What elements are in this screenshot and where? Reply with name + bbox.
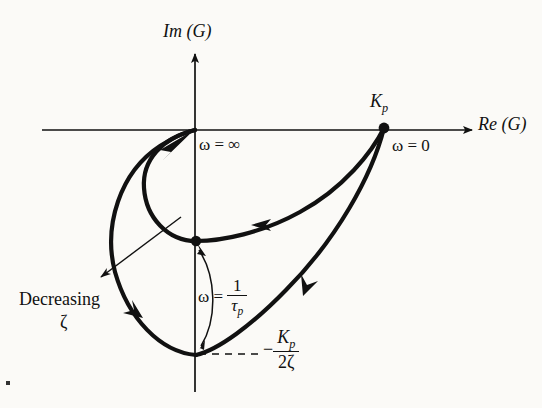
resonant-peak-k: K xyxy=(277,327,289,347)
resonant-peak-minus-sign: − xyxy=(263,339,273,359)
resonant-peak-numerator: Kp xyxy=(273,328,299,352)
nyquist-curve-low-damping-return xyxy=(111,130,196,355)
decreasing-label: Decreasing xyxy=(19,290,100,308)
real-axis-label: Re (G) xyxy=(478,115,526,133)
omega-break-fraction: 1 τp xyxy=(227,277,247,318)
scan-artifact-dot xyxy=(6,381,10,385)
nyquist-plot-figure: Im (G) Re (G) Kp ω = 0 ω = ∞ ω = 1 τp − … xyxy=(0,0,542,408)
resonant-peak-label: − Kp 2ζ xyxy=(263,329,299,372)
resonant-peak-k-subscript: p xyxy=(289,337,295,351)
omega-break-numerator: 1 xyxy=(227,277,247,296)
nyquist-curve-high-damping xyxy=(144,128,384,241)
omega-break-tau-subscript: p xyxy=(237,306,243,319)
omega-break-label: ω = 1 τp xyxy=(198,278,247,319)
resonant-peak-fraction: Kp 2ζ xyxy=(273,328,299,371)
omega-zero-label: ω = 0 xyxy=(392,137,430,154)
nyquist-curve-low-damping xyxy=(111,128,384,355)
gain-point-label: Kp xyxy=(370,92,388,114)
omega-break-denominator: τp xyxy=(227,296,247,318)
decreasing-zeta-symbol: ζ xyxy=(60,313,67,331)
resonant-peak-denominator: 2ζ xyxy=(273,352,299,371)
axis-group xyxy=(42,54,472,392)
omega-break-prefix: ω = xyxy=(198,287,227,306)
point-omega-break xyxy=(191,236,201,246)
point-kp xyxy=(379,123,390,134)
gain-point-symbol: K xyxy=(370,91,382,111)
nyquist-curve-low-damping-path xyxy=(196,128,384,355)
omega-infinity-label: ω = ∞ xyxy=(199,136,240,153)
imaginary-axis-label: Im (G) xyxy=(163,22,211,40)
gain-point-subscript: p xyxy=(382,101,388,115)
direction-arrow-low-damping-right xyxy=(301,274,318,296)
